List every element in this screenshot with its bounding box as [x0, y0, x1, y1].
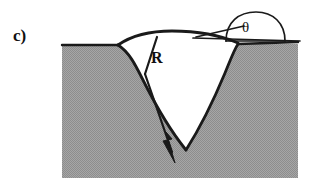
- radius-label: R: [151, 49, 163, 67]
- groove-contact-angle-diagram: [0, 0, 310, 187]
- substrate-body: [62, 44, 298, 178]
- droplet-dome: [226, 12, 285, 41]
- surface-line-right: [238, 42, 298, 44]
- contact-angle-label: θ: [242, 19, 249, 36]
- panel-label: c): [13, 26, 26, 45]
- figure-panel-c: c) R θ: [0, 0, 310, 187]
- substrate-block: [62, 44, 298, 178]
